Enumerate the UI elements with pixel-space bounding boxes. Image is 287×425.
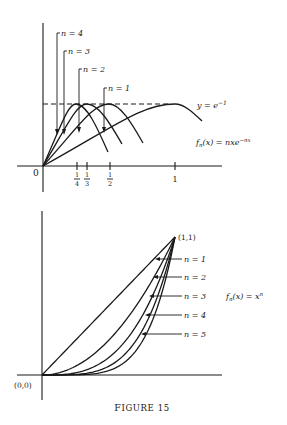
bottom-formula: fn(x) = xn [225,291,264,302]
tick-label-half-den: 2 [108,180,112,188]
label-n2: n = 2 [184,273,206,282]
label-n5: n = 5 [184,330,206,339]
tick-label-quarter-num: 1 [75,171,79,179]
origin-label: 0 [33,168,39,178]
bottom-series-labels: n = 1 n = 2 n = 3 n = 4 n = 5 [141,255,206,339]
label-n1: n = 1 [184,255,206,264]
curve-n1 [42,237,175,375]
leader-n2 [79,69,82,130]
label-n1: n = 1 [108,84,130,93]
top-chart: 1 4 1 3 1 2 1 0 n = 4 n = 3 n = 2 n [17,23,252,192]
label-n3: n = 3 [68,47,90,56]
arrow-head-icon [77,127,81,133]
figure-15: 1 4 1 3 1 2 1 0 n = 4 n = 3 n = 2 n [0,0,287,425]
figure-caption: FIGURE 15 [114,402,169,413]
point-label-one-one: (1,1) [178,233,196,242]
leader-n1 [104,88,107,130]
tick-label-half-num: 1 [108,171,112,179]
tick-label-one: 1 [172,175,177,184]
bottom-curves [42,237,175,375]
reference-line-label: y = e−1 [196,99,227,110]
label-n3: n = 3 [184,292,206,301]
leader-n4 [57,33,60,132]
tick-label-quarter-den: 4 [75,180,79,188]
point-label-origin: (0,0) [14,381,32,390]
top-curves [43,104,202,166]
top-formula: fn(x) = nxe−nx [195,137,252,148]
label-n2: n = 2 [83,65,105,74]
label-n4: n = 4 [61,29,83,38]
tick-label-third-num: 1 [85,171,89,179]
tick-label-third-den: 3 [85,180,89,188]
leader-n3 [64,51,67,132]
bottom-chart: (1,1) (0,0) n = 1 n = 2 n = 3 n = 4 n = … [14,211,264,400]
curve-n2 [43,104,143,166]
arrow-head-icon [145,313,150,317]
label-n4: n = 4 [184,311,206,320]
curve-n3 [43,104,122,166]
